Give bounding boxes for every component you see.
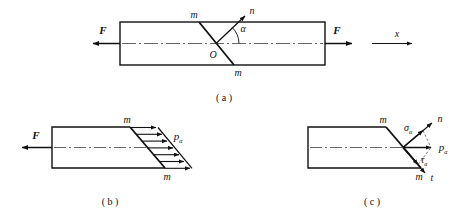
section-label-bottom-c: m [415,171,422,182]
force-label-b: F [31,129,40,141]
sigma-vector-c [403,131,423,148]
caption-b: ( b ) [102,196,119,208]
tau-label-c-sub: α [424,161,428,167]
tangent-axis-label-c: t [431,172,434,183]
panel-a: F F x m m n α O ( a ) [93,5,412,104]
tau-vector-c [403,148,418,165]
normal-label-a: n [250,5,255,16]
panel-b: F m m pα ( b ) [22,114,192,208]
normal-axis-label-c: n [438,113,443,124]
caption-a: ( a ) [216,92,232,104]
force-left-label: F [98,24,107,36]
force-right-label: F [332,24,341,36]
section-label-bottom-b: m [163,171,170,182]
caption-c: ( c ) [364,196,380,208]
p-label-c-sub: α [444,149,448,155]
sigma-label-c: σα [404,122,413,135]
origin-label-a: O [209,49,216,60]
panel-c: m m n t σα τα pα ( c ) [308,113,448,208]
angle-arc-a [232,27,239,43]
section-label-top-b: m [123,114,130,125]
angle-label-a: α [240,23,246,34]
mechanics-figure: F F x m m n α O ( a ) F [0,0,471,220]
stress-label-b-sub: α [179,138,183,144]
section-label-bottom-a: m [234,67,241,78]
stress-label-b: pα [173,130,184,144]
section-label-top-c: m [379,114,386,125]
p-label-c: pα [438,141,449,155]
section-label-top-a: m [190,9,197,20]
sigma-label-c-sub: α [409,129,413,135]
x-axis-label: x [394,28,400,39]
